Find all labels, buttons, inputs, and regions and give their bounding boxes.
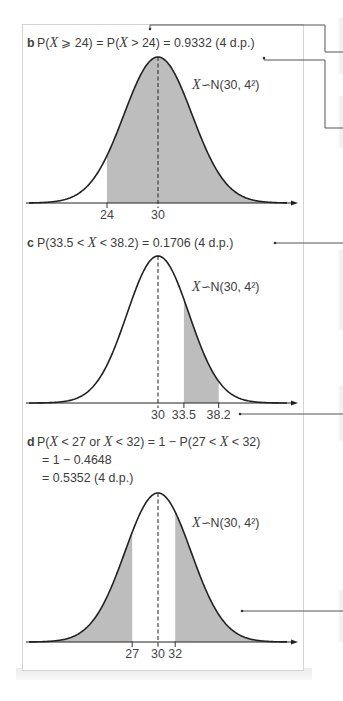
equation-line: P(33.5 < X < 38.2) = 0.1706 (4 d.p.) [37, 236, 233, 250]
equation-line: P(X ⩾ 24) = P(X > 24) = 0.9332 (4 d.p.) [37, 36, 255, 50]
adjacent-panel-edge [339, 18, 343, 74]
adjacent-panel-edge [339, 96, 343, 148]
variable-x: X [88, 235, 97, 250]
variable-x: X [119, 35, 128, 50]
panel-label: d [27, 435, 35, 449]
equation-line: P(X < 27 or X < 32) = 1 − P(27 < X < 32) [37, 435, 260, 449]
variable-x: X [220, 434, 229, 449]
equation-line: = 0.5352 (4 d.p.) [42, 471, 133, 485]
variable-x: X [192, 515, 201, 530]
variable-x: X [192, 77, 201, 92]
panel-label: b [27, 36, 35, 50]
equation-line: = 1 − 0.4648 [42, 453, 112, 467]
distribution-label: X∽N(30, 4²) [192, 516, 259, 530]
adjacent-panel-edge [339, 250, 343, 330]
distribution-label: X∽N(30, 4²) [192, 78, 259, 92]
solution-frame [22, 24, 304, 671]
adjacent-panel-edge [339, 590, 343, 642]
variable-x: X [49, 434, 58, 449]
panel-label: c [27, 236, 34, 250]
variable-x: X [104, 434, 113, 449]
variable-x: X [49, 35, 58, 50]
distribution-label: X∽N(30, 4²) [192, 280, 259, 294]
adjacent-panel-edge [339, 385, 343, 441]
variable-x: X [192, 279, 201, 294]
